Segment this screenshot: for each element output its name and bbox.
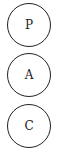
node-p: P (7, 3, 51, 47)
node-label: C (24, 120, 33, 132)
node-c: C (7, 104, 51, 148)
node-a: A (7, 53, 51, 97)
node-label: P (25, 19, 33, 31)
node-label: A (25, 69, 34, 81)
